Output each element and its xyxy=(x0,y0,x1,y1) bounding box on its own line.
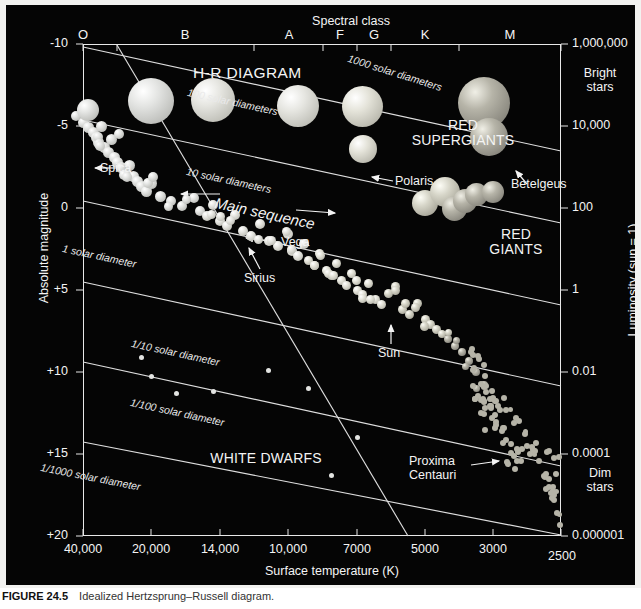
cool-dwarf-star xyxy=(504,459,510,465)
main-sequence-star xyxy=(536,458,542,464)
main-sequence-star xyxy=(164,202,173,211)
star-label-polaris: Polaris xyxy=(395,174,433,188)
main-sequence-star xyxy=(401,299,410,308)
xtick-7: 2500 xyxy=(522,549,602,563)
radius-line-1-10 xyxy=(83,282,561,386)
main-sequence-star xyxy=(216,212,225,221)
cool-dwarf-star xyxy=(553,471,559,477)
white-dwarf-star xyxy=(329,473,334,478)
star-label-betelgeuse: Betelgeus xyxy=(511,177,567,191)
cool-dwarf-star xyxy=(511,420,517,426)
main-sequence-star xyxy=(508,407,513,412)
main-sequence-star xyxy=(352,276,361,285)
main-sequence-star xyxy=(148,172,158,182)
white-dwarfs-label: WHITE DWARFS xyxy=(186,451,346,466)
main-sequence-star xyxy=(96,121,107,132)
white-dwarf-star xyxy=(355,435,360,440)
star-polaris xyxy=(349,135,377,163)
red-giant-star xyxy=(482,181,504,203)
main-sequence-star xyxy=(458,348,466,356)
main-sequence-star xyxy=(342,281,351,290)
y2tick-5: 0.0001 xyxy=(572,446,610,460)
spectral-class-B: B xyxy=(174,27,196,42)
bright-stars-line1: Bright xyxy=(572,67,628,81)
red-supergiant-star xyxy=(342,86,383,127)
main-sequence-star xyxy=(114,129,124,139)
cool-dwarf-star xyxy=(487,396,493,402)
spectral-class-F: F xyxy=(329,27,351,42)
cool-dwarf-star xyxy=(497,407,503,413)
caption-text: Idealized Hertzsprung–Russell diagram. xyxy=(79,590,274,602)
ytick-5: +15 xyxy=(16,446,68,460)
x-axis-title: Surface temperature (K) xyxy=(242,564,422,578)
cool-dwarf-star xyxy=(556,454,562,460)
cool-dwarf-star xyxy=(518,458,524,464)
white-dwarf-star xyxy=(149,374,154,379)
red-giants-line2: GIANTS xyxy=(478,242,554,257)
ytick-4: +10 xyxy=(16,364,68,378)
dim-stars-line1: Dim xyxy=(572,467,628,481)
red-supergiants-line1: RED xyxy=(404,118,522,133)
y2tick-4: 0.01 xyxy=(572,364,596,378)
main-sequence-star xyxy=(310,261,319,270)
leader-polaris xyxy=(372,177,393,181)
cool-dwarf-star xyxy=(501,395,507,401)
caption-number: FIGURE 24.5 xyxy=(2,590,68,602)
main-sequence-star xyxy=(329,271,338,280)
ytick-0: -10 xyxy=(16,36,68,50)
cool-dwarf-star xyxy=(512,466,518,472)
white-dwarf-star xyxy=(139,355,144,360)
red-supergiant-star xyxy=(277,85,319,127)
y2tick-0: 1,000,000 xyxy=(572,36,628,50)
cool-dwarf-star xyxy=(543,486,549,492)
ytick-1: -5 xyxy=(16,118,68,132)
star-label-sun: Sun xyxy=(378,346,400,360)
y2tick-3: 1 xyxy=(572,282,579,296)
cool-dwarf-star xyxy=(493,422,499,428)
main-sequence-star xyxy=(391,286,400,295)
cool-dwarf-star xyxy=(513,415,519,421)
hr-diagram-figure: -10 -5 0 +5 +10 +15 +20 Absolute magnitu… xyxy=(0,0,641,609)
cool-dwarf-star xyxy=(524,443,530,449)
y2-axis-title: Luminosity (sun = 1) xyxy=(626,205,640,355)
spectral-class-A: A xyxy=(278,27,300,42)
y2tick-1: 10,000 xyxy=(572,118,610,132)
plot-overlay xyxy=(6,5,635,585)
xtick-3: 10,000 xyxy=(248,542,328,556)
main-sequence-star xyxy=(420,322,429,331)
xtick-1: 20,000 xyxy=(111,542,191,556)
diagram-plate: -10 -5 0 +5 +10 +15 +20 Absolute magnitu… xyxy=(6,5,635,585)
ytick-6: +20 xyxy=(16,528,68,542)
star-label-sirius: Sirius xyxy=(244,271,275,285)
white-dwarf-star xyxy=(211,389,216,394)
cool-dwarf-star xyxy=(481,362,487,368)
cool-dwarf-star xyxy=(530,447,536,453)
blue-supergiant-star xyxy=(77,99,99,121)
figure-caption: FIGURE 24.5 Idealized Hertzsprung–Russel… xyxy=(0,588,641,609)
red-supergiants-line2: SUPERGIANTS xyxy=(404,133,522,148)
dim-stars-line2: stars xyxy=(572,481,628,495)
spectral-class-K: K xyxy=(414,27,436,42)
y-axis-title: Absolute magnitude xyxy=(37,188,51,308)
leader-sirius xyxy=(249,248,260,269)
main-sequence-star xyxy=(332,259,341,268)
main-sequence-star xyxy=(523,429,528,434)
cool-dwarf-star xyxy=(499,428,505,434)
spectral-class-title: Spectral class xyxy=(281,14,421,28)
y2tick-2: 100 xyxy=(572,200,593,214)
cool-dwarf-star xyxy=(481,384,487,390)
cool-dwarf-star xyxy=(470,367,476,373)
main-sequence-star xyxy=(445,329,452,336)
leader-proxima xyxy=(471,461,499,465)
spectral-class-O: O xyxy=(72,27,94,42)
star-label-proxima: Proxima xyxy=(409,454,455,468)
y2tick-6: 0.000001 xyxy=(572,528,624,542)
plot-area: -10 -5 0 +5 +10 +15 +20 Absolute magnitu… xyxy=(6,5,635,585)
cool-dwarf-star xyxy=(492,412,498,418)
star-label-spica: Spica xyxy=(100,161,131,175)
white-dwarf-star xyxy=(306,386,311,391)
cool-dwarf-star xyxy=(493,398,499,404)
main-sequence-star xyxy=(557,522,563,528)
bright-stars-line2: stars xyxy=(572,81,628,95)
spectral-class-M: M xyxy=(499,27,521,42)
